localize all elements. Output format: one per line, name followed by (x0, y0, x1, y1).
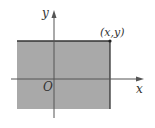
shaded-region (17, 41, 110, 109)
y-axis-arrow-icon (52, 10, 57, 18)
corner-point (108, 39, 111, 42)
coordinate-diagram: y x O (x,y) (0, 0, 155, 128)
y-axis-label: y (41, 6, 49, 20)
x-axis-arrow-icon (136, 77, 144, 82)
origin-label: O (43, 80, 53, 94)
corner-point-label: (x,y) (100, 26, 125, 39)
x-axis-label: x (136, 82, 143, 96)
